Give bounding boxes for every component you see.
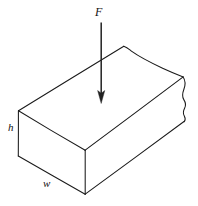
top-front-left-edge — [19, 111, 86, 150]
height-label: h — [8, 122, 14, 133]
bottom-left-edge — [18, 156, 85, 194]
diagram-canvas — [0, 0, 198, 206]
right-wavy-vertical-edge — [183, 77, 186, 122]
force-arrow — [98, 23, 105, 104]
top-back-left-edge — [19, 46, 124, 111]
force-label: F — [95, 6, 102, 18]
bottom-right-edge — [85, 122, 184, 195]
width-label: w — [43, 178, 50, 189]
force-block-diagram: F h w — [0, 0, 198, 206]
top-back-right-edge — [124, 46, 183, 76]
top-front-right-edge — [85, 77, 183, 150]
